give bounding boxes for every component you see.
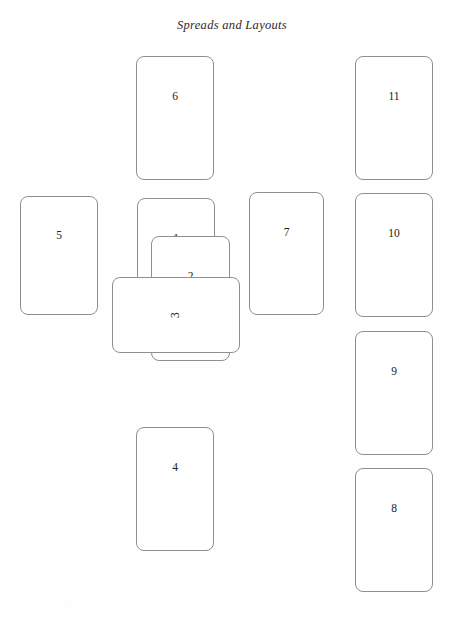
diagram-page: Spreads and Layouts 1234567891011 (0, 0, 464, 628)
card-position-4[interactable]: 4 (136, 427, 214, 551)
card-position-8[interactable]: 8 (355, 468, 433, 592)
card-number-label: 10 (356, 228, 432, 240)
card-position-6[interactable]: 6 (136, 56, 214, 180)
page-title: Spreads and Layouts (0, 18, 464, 33)
card-position-5[interactable]: 5 (20, 196, 98, 315)
card-number-label: 11 (356, 91, 432, 103)
card-position-7[interactable]: 7 (249, 192, 324, 315)
card-position-9[interactable]: 9 (355, 331, 433, 455)
scan-speck (70, 604, 72, 606)
card-number-label: 5 (21, 230, 97, 242)
card-number-label: 3 (170, 252, 182, 378)
card-number-label: 4 (137, 462, 213, 474)
card-number-label: 8 (356, 503, 432, 515)
card-position-3[interactable]: 3 (112, 277, 240, 353)
card-number-label: 6 (137, 91, 213, 103)
card-position-10[interactable]: 10 (355, 193, 433, 317)
card-number-label: 9 (356, 366, 432, 378)
card-number-label: 7 (250, 227, 323, 239)
card-position-11[interactable]: 11 (355, 56, 433, 180)
